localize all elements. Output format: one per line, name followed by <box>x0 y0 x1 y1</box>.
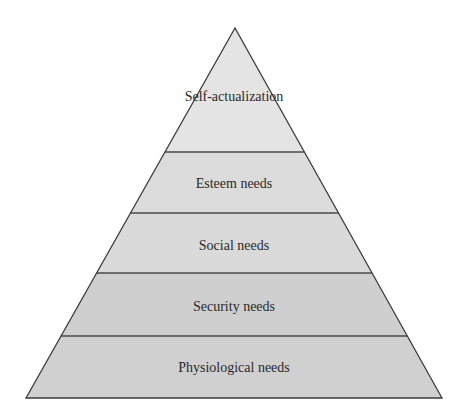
tier-label-esteem-needs: Esteem needs <box>196 176 273 191</box>
tier-label-social-needs: Social needs <box>199 238 269 253</box>
tier-label-security-needs: Security needs <box>193 299 275 314</box>
tier-label-physiological-needs: Physiological needs <box>178 360 290 375</box>
tier-label-self-actualization: Self-actualization <box>185 89 284 104</box>
maslow-pyramid-diagram: Self-actualization Esteem needs Social n… <box>0 0 467 419</box>
